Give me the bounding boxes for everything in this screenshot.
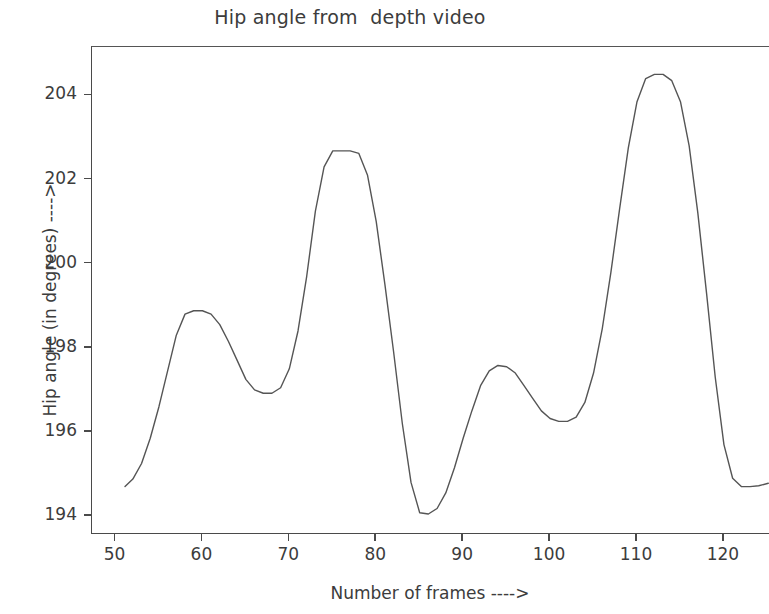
x-tick-mark bbox=[201, 534, 203, 541]
y-tick-mark bbox=[84, 178, 91, 180]
x-tick-label: 70 bbox=[277, 544, 299, 564]
x-tick-label: 80 bbox=[364, 544, 386, 564]
data-line-chart bbox=[92, 47, 769, 535]
x-tick-label: 60 bbox=[191, 544, 213, 564]
y-tick-mark bbox=[84, 514, 91, 516]
x-tick-mark bbox=[288, 534, 290, 541]
x-axis-label: Number of frames ----> bbox=[91, 583, 769, 603]
x-tick-label: 90 bbox=[451, 544, 473, 564]
y-tick-mark bbox=[84, 262, 91, 264]
chart-title: Hip angle from depth video bbox=[0, 6, 700, 28]
x-tick-label: 50 bbox=[104, 544, 126, 564]
x-tick-label: 110 bbox=[620, 544, 652, 564]
chart-figure: Hip angle from depth video 1941961982002… bbox=[0, 0, 769, 614]
y-tick-mark bbox=[84, 94, 91, 96]
x-tick-mark bbox=[635, 534, 637, 541]
hip-angle-line bbox=[125, 74, 768, 514]
y-tick-mark bbox=[84, 430, 91, 432]
y-tick-mark bbox=[84, 346, 91, 348]
x-tick-mark bbox=[548, 534, 550, 541]
x-tick-label: 120 bbox=[707, 544, 739, 564]
plot-area bbox=[91, 46, 769, 534]
x-tick-mark bbox=[374, 534, 376, 541]
x-tick-mark bbox=[722, 534, 724, 541]
x-tick-mark bbox=[461, 534, 463, 541]
x-tick-mark bbox=[114, 534, 116, 541]
y-axis-label: Hip angle (in degrees) ----> bbox=[40, 90, 60, 510]
x-tick-label: 100 bbox=[533, 544, 565, 564]
